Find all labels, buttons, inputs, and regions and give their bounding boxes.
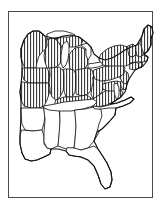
state-iowa — [22, 68, 50, 83]
state-alabama — [58, 109, 76, 149]
state-arkansas — [21, 108, 45, 131]
state-minnesota — [21, 31, 47, 68]
state-indiana — [64, 69, 76, 97]
state-missouri — [20, 82, 50, 108]
state-florida — [66, 146, 112, 189]
eastern-us-map — [9, 12, 154, 199]
state-mississippi — [44, 108, 60, 149]
state-illinois — [49, 67, 64, 100]
unshaded-states-group — [20, 97, 134, 189]
figure-root — [0, 0, 163, 211]
map-frame-border — [8, 11, 153, 198]
lake-erie — [88, 62, 103, 68]
western-border-outline — [20, 49, 22, 116]
